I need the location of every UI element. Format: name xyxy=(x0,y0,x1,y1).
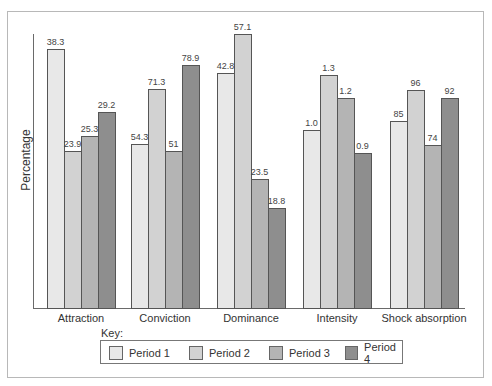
bar xyxy=(148,89,166,309)
data-label: 96 xyxy=(401,78,431,88)
bar xyxy=(182,65,200,309)
legend-swatch xyxy=(109,346,123,360)
legend-title: Key: xyxy=(101,327,123,339)
y-axis-label: Percentage xyxy=(19,129,33,190)
bar xyxy=(303,130,321,309)
y-axis xyxy=(33,34,34,309)
x-tick-label: Conviction xyxy=(139,312,190,324)
bar xyxy=(390,121,408,309)
legend-item: Period 2 xyxy=(189,345,250,360)
legend-item: Period 3 xyxy=(269,345,330,360)
x-tick-label: Intensity xyxy=(317,312,358,324)
legend-swatch xyxy=(269,346,283,360)
bar xyxy=(354,153,372,309)
data-label: 1.2 xyxy=(331,86,361,96)
bar xyxy=(98,112,116,309)
bar xyxy=(64,151,82,309)
legend-label: Period 1 xyxy=(129,347,170,359)
data-label: 78.9 xyxy=(176,53,206,63)
legend-label: Period 2 xyxy=(209,347,250,359)
bar xyxy=(81,136,99,309)
data-label: 23.5 xyxy=(245,167,275,177)
data-label: 92 xyxy=(435,86,465,96)
bar xyxy=(268,208,286,309)
data-label: 71.3 xyxy=(142,77,172,87)
bar xyxy=(407,90,425,309)
x-tick-label: Dominance xyxy=(223,312,279,324)
data-label: 29.2 xyxy=(92,100,122,110)
bar xyxy=(441,98,459,309)
bar xyxy=(337,98,355,309)
x-tick-label: Attraction xyxy=(58,312,104,324)
legend-item: Period 4 xyxy=(345,345,402,360)
data-label: 1.3 xyxy=(314,63,344,73)
legend-label: Period 4 xyxy=(364,341,402,365)
legend: Period 1Period 2Period 3Period 4 xyxy=(100,340,403,364)
legend-swatch xyxy=(345,346,358,360)
legend-item: Period 1 xyxy=(109,345,170,360)
legend-label: Period 3 xyxy=(289,347,330,359)
bar xyxy=(424,145,442,309)
bar xyxy=(217,73,235,309)
data-label: 18.8 xyxy=(262,196,292,206)
data-label: 57.1 xyxy=(228,22,258,32)
data-label: 38.3 xyxy=(41,37,71,47)
bar xyxy=(165,151,183,309)
legend-swatch xyxy=(189,346,203,360)
bar xyxy=(47,49,65,309)
data-label: 0.9 xyxy=(348,141,378,151)
x-tick-label: Shock absorption xyxy=(382,312,467,324)
bar xyxy=(131,144,149,309)
bar xyxy=(320,75,338,309)
